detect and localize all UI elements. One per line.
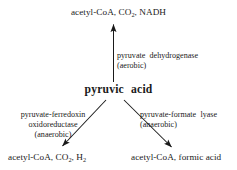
product-text-prefix: acetyl-CoA, CO [71,7,131,17]
center-metabolite-pyruvic-acid: pyruvic acid [0,84,237,97]
product-subscript-co2: 2 [68,156,71,163]
product-label-aerobic: acetyl-CoA, CO2, NADH [0,8,237,18]
center-word-acid: acid [131,83,152,96]
enzyme-name-line-1: pyruvate-ferredoxin [10,110,96,120]
enzyme-word-lyase: lyase [200,110,217,119]
product-text-prefix: acetyl-CoA, CO [8,152,68,162]
product-text-mid: , H [72,152,83,162]
enzyme-condition-line: (anaerobic) [140,120,217,130]
enzyme-condition-line: (aerobic) [117,61,198,71]
product-label-ferredoxin-branch: acetyl-CoA, CO2, H2 [8,153,86,163]
enzyme-word-pyruvate: pyruvate [117,51,145,60]
enzyme-name-line: pyruvate dehydrogenase [117,51,198,61]
product-subscript-h2: 2 [83,156,86,163]
enzyme-condition-line: (anaerobic) [10,130,96,140]
enzyme-label-pyruvate-formate-lyase: pyruvate-formate lyase (anaerobic) [140,110,217,130]
enzyme-word-dehydrogenase: dehydrogenase [150,51,199,60]
enzyme-name-line-2: oxidoreductase [10,120,96,130]
product-text-suffix: , NADH [135,7,166,17]
enzyme-label-pyruvate-dehydrogenase: pyruvate dehydrogenase (aerobic) [117,51,198,71]
enzyme-label-pyruvate-ferredoxin-oxidoreductase: pyruvate-ferredoxin oxidoreductase (anae… [10,110,96,140]
enzyme-name-line: pyruvate-formate lyase [140,110,217,120]
center-word-pyruvic: pyruvic [85,83,124,96]
product-label-formate-branch: acetyl-CoA, formic acid [131,153,221,163]
pyruvate-metabolism-diagram: acetyl-CoA, CO2, NADH pyruvate dehydroge… [0,0,237,170]
product-subscript: 2 [131,11,134,18]
enzyme-word-pyruvate-formate: pyruvate-formate [140,110,196,119]
